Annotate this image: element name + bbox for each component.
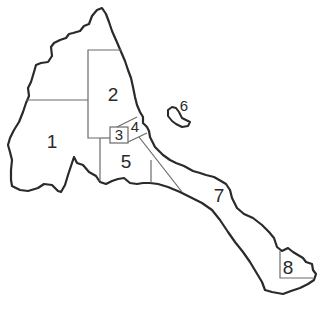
region-label-5: 5 [121, 151, 132, 172]
region-label-1: 1 [47, 131, 58, 152]
region-label-8: 8 [283, 257, 294, 278]
region-label-6: 6 [180, 97, 188, 114]
region-label-4: 4 [131, 118, 139, 135]
region-label-3: 3 [115, 126, 123, 143]
region-map: 1 2 3 4 5 6 7 8 [0, 0, 324, 309]
region-label-7: 7 [214, 185, 225, 206]
region-label-2: 2 [108, 84, 119, 105]
